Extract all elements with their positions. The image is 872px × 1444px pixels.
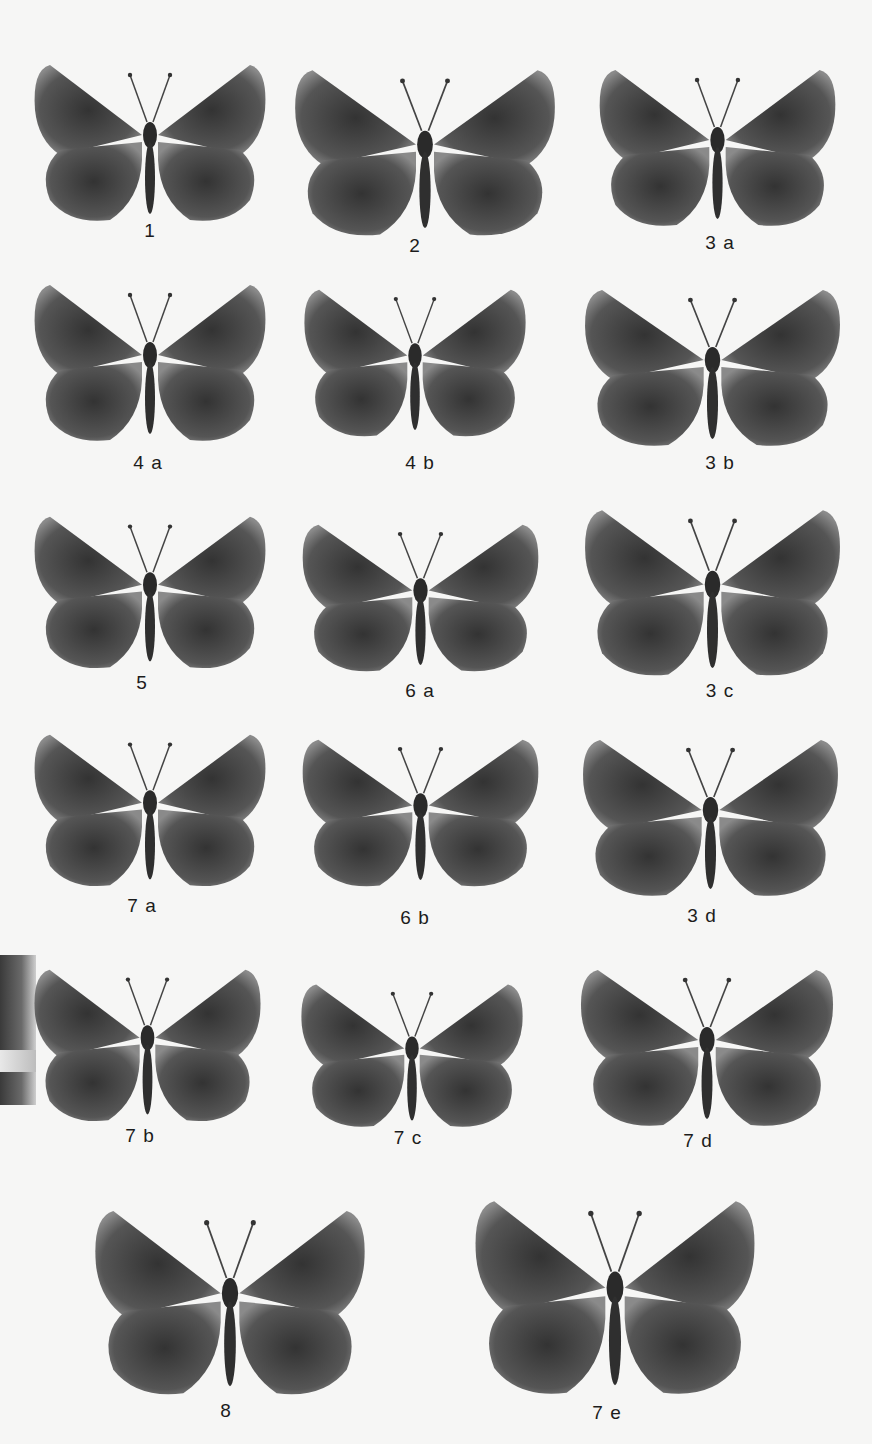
butterfly-specimen <box>30 730 270 895</box>
butterfly-icon <box>470 1195 760 1405</box>
butterfly-icon <box>298 520 543 680</box>
figure-label: 4 b <box>390 452 450 474</box>
butterfly-icon <box>580 285 845 455</box>
butterfly-icon <box>576 965 838 1135</box>
butterfly-icon <box>30 60 270 230</box>
butterfly-specimen <box>576 965 838 1135</box>
figure-label: 3 c <box>690 680 750 702</box>
figure-label: 7 d <box>668 1130 728 1152</box>
figure-label: 3 a <box>690 232 750 254</box>
butterfly-specimen <box>297 980 527 1135</box>
butterfly-icon <box>300 285 530 445</box>
butterfly-specimen <box>30 280 270 450</box>
butterfly-specimen <box>90 1205 370 1405</box>
butterfly-icon <box>90 1205 370 1405</box>
figure-label: 5 <box>112 672 172 694</box>
butterfly-icon <box>30 280 270 450</box>
butterfly-specimen <box>580 285 845 455</box>
figure-label: 8 <box>196 1400 256 1422</box>
figure-label: 3 d <box>672 905 732 927</box>
butterfly-icon <box>290 65 560 245</box>
figure-label: 7 c <box>378 1127 438 1149</box>
figure-label: 7 b <box>110 1125 170 1147</box>
butterfly-specimen <box>595 65 840 235</box>
figure-label: 4 a <box>118 452 178 474</box>
butterfly-icon <box>578 735 843 905</box>
butterfly-specimen <box>30 965 265 1130</box>
butterfly-specimen <box>578 735 843 905</box>
butterfly-specimen <box>290 65 560 245</box>
butterfly-icon <box>580 505 845 685</box>
butterfly-specimen <box>580 505 845 685</box>
butterfly-icon <box>595 65 840 235</box>
butterfly-specimen <box>298 735 543 895</box>
butterfly-icon <box>297 980 527 1135</box>
figure-label: 1 <box>120 220 180 242</box>
butterfly-specimen <box>30 512 270 677</box>
figure-label: 6 a <box>390 680 450 702</box>
figure-label: 3 b <box>690 452 750 474</box>
butterfly-specimen <box>470 1195 760 1405</box>
butterfly-icon <box>30 965 265 1130</box>
butterfly-icon <box>298 735 543 895</box>
figure-label: 6 b <box>385 907 445 929</box>
figure-label: 2 <box>385 235 445 257</box>
butterfly-icon <box>30 730 270 895</box>
butterfly-specimen <box>300 285 530 445</box>
butterfly-specimen <box>30 60 270 230</box>
butterfly-icon <box>30 512 270 677</box>
figure-label: 7 e <box>577 1402 637 1424</box>
figure-label: 7 a <box>112 895 172 917</box>
butterfly-specimen <box>298 520 543 680</box>
